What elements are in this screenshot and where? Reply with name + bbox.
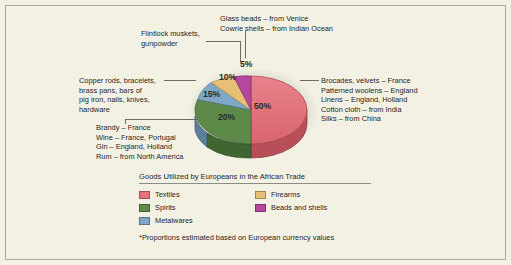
slice-value-metalwares: 15% [203, 89, 220, 99]
legend-swatch-spirits [139, 204, 150, 212]
legend-row: Textiles Firearms [139, 188, 371, 201]
leader-line-spirits-vertical [125, 119, 126, 124]
legend-swatch-beads-and-shells [255, 204, 266, 212]
slice-value-textiles: 50% [254, 101, 271, 111]
legend-label-beads-and-shells: Beads and shells [271, 203, 327, 212]
footnote: *Proportions estimated based on European… [139, 233, 334, 242]
legend-label-textiles: Textiles [155, 190, 180, 199]
legend-title: Goods Utilized by Europeans in the Afric… [139, 172, 371, 184]
legend-label-metalwares: Metalwares [155, 216, 193, 225]
legend-row: Metalwares [139, 214, 371, 227]
legend-label-spirits: Spirits [155, 203, 176, 212]
legend-row: Spirits Beads and shells [139, 201, 371, 214]
callout-spirits: Brandy – France Wine – France, Portugal … [96, 123, 183, 161]
callout-metalwares: Copper rods, bracelets, brass pans, bars… [79, 76, 156, 114]
slice-value-beads-and-shells: 5% [240, 59, 252, 69]
pie-chart-figure: Glass beads – from Venice Cowrie shells … [0, 0, 511, 265]
legend-item-spirits: Spirits [139, 203, 255, 212]
legend: Goods Utilized by Europeans in the Afric… [139, 172, 371, 227]
legend-swatch-firearms [255, 191, 266, 199]
legend-item-textiles: Textiles [139, 190, 255, 199]
callout-textiles: Brocades, velvets – France Patterned woo… [321, 76, 418, 124]
pie-graphic: 50% 20% 15% 10% 5% [183, 47, 319, 159]
callout-firearms: Flintlock muskets, gunpowder [141, 29, 200, 48]
callout-beads-and-shells: Glass beads – from Venice Cowrie shells … [220, 14, 333, 33]
legend-item-firearms: Firearms [255, 190, 371, 199]
legend-label-firearms: Firearms [271, 190, 300, 199]
legend-item-metalwares: Metalwares [139, 216, 255, 225]
legend-swatch-metalwares [139, 217, 150, 225]
slice-value-firearms: 10% [219, 72, 236, 82]
slice-value-spirits: 20% [218, 112, 235, 122]
leader-line-firearms-horizontal [206, 41, 240, 42]
legend-swatch-textiles [139, 191, 150, 199]
legend-item-beads-and-shells: Beads and shells [255, 203, 371, 212]
